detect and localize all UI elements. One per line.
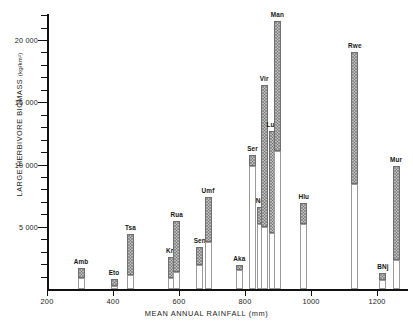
bar-upper-segment xyxy=(127,234,134,276)
site-label: Hlu xyxy=(281,193,327,200)
biomass-bar[interactable]: Hlu xyxy=(300,193,307,289)
bar-lower-segment xyxy=(249,166,256,289)
y-tick-minor xyxy=(41,152,47,153)
y-axis-title: LARGE HERBIVORE BIOMASS (kg/km²) xyxy=(15,10,24,240)
site-label: Rwe xyxy=(332,42,378,49)
bar-upper-segment xyxy=(236,265,243,270)
site-label: Rua xyxy=(154,211,200,218)
bar-upper-segment xyxy=(261,85,268,227)
y-tick-minor xyxy=(41,202,47,203)
bar-lower-segment xyxy=(111,286,118,289)
bar-lower-segment xyxy=(379,280,386,289)
bar-lower-segment xyxy=(300,224,307,289)
bar-lower-segment xyxy=(351,184,358,289)
y-tick-minor xyxy=(41,28,47,29)
site-label: Tsa xyxy=(108,224,154,231)
bar-lower-segment xyxy=(196,265,203,289)
bar-lower-segment xyxy=(236,270,243,289)
bar-upper-segment xyxy=(249,155,256,166)
biomass-bar[interactable]: Man xyxy=(274,11,281,289)
x-tick xyxy=(311,291,312,296)
biomass-bar[interactable]: Vir xyxy=(261,75,268,289)
biomass-bar[interactable]: BNj xyxy=(379,263,386,289)
y-tick-minor xyxy=(41,189,47,190)
x-tick xyxy=(47,291,48,296)
bar-lower-segment xyxy=(127,275,134,289)
x-tick xyxy=(179,291,180,296)
site-label: Umf xyxy=(185,187,231,194)
bar-upper-segment xyxy=(196,247,203,266)
biomass-bar[interactable]: Sen xyxy=(196,237,203,289)
y-axis-title-unit: (kg/km²) xyxy=(17,53,23,77)
y-tick-minor xyxy=(41,77,47,78)
x-tick-label: 1200 xyxy=(357,297,397,306)
bar-upper-segment xyxy=(393,166,400,261)
biomass-bar[interactable]: Ser xyxy=(249,145,256,289)
site-label: Man xyxy=(254,11,300,18)
bar-upper-segment xyxy=(78,268,85,278)
x-tick xyxy=(245,291,246,296)
bar-lower-segment xyxy=(205,242,212,289)
plot-area: AmbEtoTsaKruRuaSenUmfAkaSerNaiVirLuaManH… xyxy=(48,14,408,290)
biomass-bar[interactable]: Eto xyxy=(111,269,118,289)
bar-lower-segment xyxy=(78,278,85,289)
bar-lower-segment xyxy=(393,260,400,289)
bar-upper-segment xyxy=(379,273,386,280)
y-tick-minor xyxy=(41,140,47,141)
y-tick-minor xyxy=(41,65,47,66)
y-tick-minor xyxy=(41,52,47,53)
bar-upper-segment xyxy=(351,52,358,184)
x-tick-label: 600 xyxy=(159,297,199,306)
bar-upper-segment xyxy=(111,279,118,286)
y-tick-minor xyxy=(41,115,47,116)
biomass-bar[interactable]: Rwe xyxy=(351,42,358,289)
biomass-bar[interactable]: Tsa xyxy=(127,224,134,289)
y-tick-major xyxy=(38,227,47,228)
y-tick-minor xyxy=(41,90,47,91)
y-tick-minor xyxy=(41,177,47,178)
biomass-rainfall-chart: 5 00010 00015 00020 000 2004006008001000… xyxy=(0,0,413,327)
bar-upper-segment xyxy=(205,197,212,242)
bar-lower-segment xyxy=(173,272,180,289)
y-tick-minor xyxy=(41,15,47,16)
bar-upper-segment xyxy=(173,221,180,272)
x-tick-label: 200 xyxy=(27,297,67,306)
site-label: Amb xyxy=(58,258,104,265)
site-label: Mur xyxy=(373,156,413,163)
y-axis-title-text: LARGE HERBIVORE BIOMASS xyxy=(15,79,24,197)
bar-upper-segment xyxy=(300,203,307,224)
y-tick-minor xyxy=(41,239,47,240)
x-tick-label: 1000 xyxy=(291,297,331,306)
biomass-bar[interactable]: Umf xyxy=(205,187,212,289)
x-axis-title: MEAN ANNUAL RAINFALL (mm) xyxy=(0,309,413,318)
x-tick-label: 400 xyxy=(93,297,133,306)
y-tick-minor xyxy=(41,214,47,215)
bar-lower-segment xyxy=(274,151,281,289)
site-label: Kru xyxy=(149,247,195,254)
y-tick-major xyxy=(38,40,47,41)
x-tick xyxy=(113,291,114,296)
y-tick-minor xyxy=(41,127,47,128)
biomass-bar[interactable]: Amb xyxy=(78,258,85,289)
biomass-bar[interactable]: Aka xyxy=(236,255,243,289)
site-label: Sen xyxy=(177,237,223,244)
biomass-bar[interactable]: Mur xyxy=(393,156,400,289)
site-label: Lua xyxy=(249,121,295,128)
bar-upper-segment xyxy=(274,21,281,150)
y-tick-minor xyxy=(41,277,47,278)
y-tick-major xyxy=(38,165,47,166)
bar-lower-segment xyxy=(261,227,268,289)
y-tick-major xyxy=(38,102,47,103)
biomass-bar[interactable]: Rua xyxy=(173,211,180,289)
x-tick xyxy=(377,291,378,296)
y-tick-minor xyxy=(41,252,47,253)
y-tick-minor xyxy=(41,264,47,265)
x-tick-label: 800 xyxy=(225,297,265,306)
